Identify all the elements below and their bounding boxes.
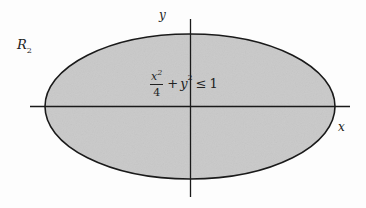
fraction: x2 4 [150, 68, 163, 99]
x-axis-label: x [338, 121, 345, 133]
inequality-label: x2 4 + y2 ≤ 1 [150, 68, 218, 99]
ellipse-region-figure: R2 y x x2 4 + y2 ≤ 1 [0, 0, 366, 208]
ellipse-diagram [0, 0, 366, 208]
y-axis-label: y [159, 9, 166, 21]
region-label: R2 [17, 38, 32, 55]
